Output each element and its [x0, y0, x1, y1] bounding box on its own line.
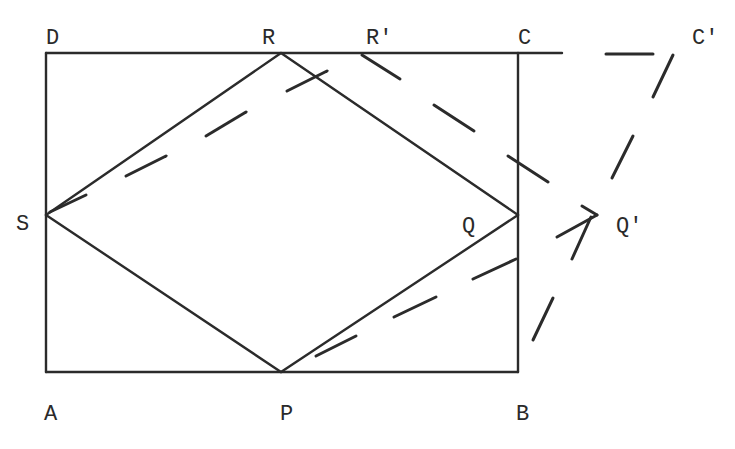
edge-ps [46, 215, 281, 372]
edge-sr [46, 53, 281, 215]
label-r-prime: R' [366, 26, 392, 51]
dash-rprime-qprime-1 [362, 55, 400, 79]
rectangle-abcd [46, 53, 562, 372]
label-d: D [46, 26, 59, 51]
geometry-diagram: D R R' C C' S Q Q' A P B [0, 0, 735, 449]
dash-s-rprime-3 [206, 112, 246, 136]
dash-cprime-b-4 [533, 298, 553, 340]
label-b: B [516, 402, 529, 427]
label-p: P [280, 402, 293, 427]
rhombus-pqrs [46, 53, 518, 372]
dash-cprime-b-1 [653, 55, 673, 97]
label-r: R [262, 26, 275, 51]
point-labels: D R R' C C' S Q Q' A P B [16, 26, 718, 427]
edge-qp [281, 215, 518, 372]
dash-rprime-qprime-2 [434, 105, 474, 131]
label-s: S [16, 212, 29, 237]
dash-cprime-b-2 [612, 136, 633, 178]
dash-qprime-p-2 [473, 259, 516, 279]
dash-rprime-qprime-4 [582, 206, 597, 215]
dash-rprime-qprime-3 [508, 156, 548, 182]
label-q-prime: Q' [616, 214, 642, 239]
dash-s-rprime-1 [50, 195, 86, 212]
label-a: A [44, 402, 58, 427]
dash-qprime-p-3 [394, 297, 436, 317]
dash-s-rprime-2 [126, 156, 166, 176]
dashed-figure [50, 54, 673, 356]
label-c: C [518, 26, 531, 51]
label-c-prime: C' [692, 26, 718, 51]
label-q: Q [462, 214, 475, 239]
